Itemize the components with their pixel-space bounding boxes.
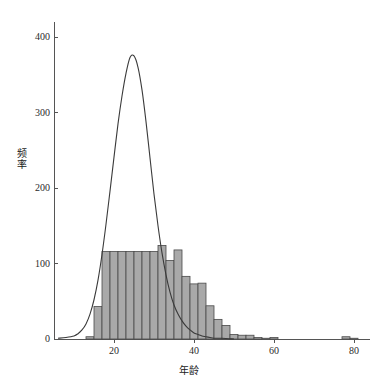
histogram-bar (246, 335, 254, 339)
plot-area (0, 0, 378, 389)
y-tick-label: 0 (12, 334, 50, 344)
histogram-bar (214, 319, 222, 339)
y-tick-label: 300 (12, 108, 50, 118)
histogram-bar (262, 338, 270, 339)
histogram-bar (238, 335, 246, 339)
y-tick-label: 200 (12, 183, 50, 193)
y-tick-label: 100 (12, 259, 50, 269)
y-tick-label: 400 (12, 32, 50, 42)
histogram-bar (126, 251, 134, 339)
histogram-bar (342, 337, 350, 339)
y-axis-title: 频 率 (14, 148, 30, 170)
histogram-bars (86, 245, 358, 339)
histogram-bar (94, 307, 102, 339)
x-tick-label: 40 (174, 346, 214, 356)
histogram-bar (166, 261, 174, 339)
histogram-bar (206, 306, 214, 339)
histogram-bar (174, 250, 182, 339)
histogram-bar (222, 325, 230, 339)
y-axis-title-char-2: 率 (14, 159, 30, 170)
histogram-bar (102, 251, 110, 339)
histogram-bar (270, 337, 278, 339)
histogram-bar (198, 283, 206, 339)
axes (54, 22, 370, 343)
x-tick-label: 20 (94, 346, 134, 356)
histogram-bar (134, 251, 142, 339)
histogram-bar (118, 251, 126, 339)
histogram-bar (254, 337, 262, 339)
histogram-bar (110, 251, 118, 339)
histogram-bar (350, 338, 358, 339)
x-tick-label: 60 (254, 346, 294, 356)
histogram-bar (86, 337, 94, 339)
x-axis-title: 年龄 (0, 362, 378, 377)
x-tick-label: 80 (334, 346, 374, 356)
y-axis-title-char-1: 频 (14, 148, 30, 159)
histogram-bar (150, 251, 158, 339)
histogram-bar (158, 245, 166, 339)
histogram-chart: 0100200300400 20406080 频 率 年龄 (0, 0, 378, 389)
histogram-bar (142, 251, 150, 339)
